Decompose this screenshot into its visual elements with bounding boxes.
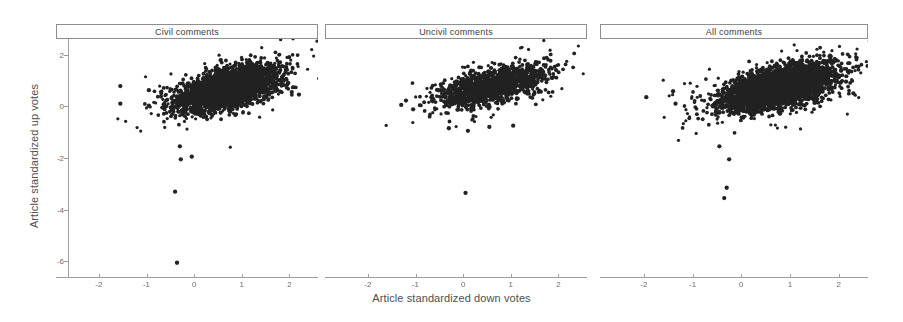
x-axis-line-0 bbox=[56, 277, 318, 278]
x-tick-mark bbox=[693, 274, 694, 278]
panel-plot-area-1 bbox=[325, 39, 587, 277]
x-tick-label: 2 bbox=[556, 280, 560, 289]
x-tick-mark bbox=[416, 274, 417, 278]
panel-header-0: Civil comments bbox=[56, 24, 318, 39]
x-tick-label: 2 bbox=[837, 280, 841, 289]
x-axis-line-1 bbox=[325, 277, 587, 278]
panel-header-1: Uncivil comments bbox=[325, 24, 587, 39]
x-tick-mark bbox=[790, 274, 791, 278]
x-tick-label: 2 bbox=[287, 280, 291, 289]
x-axis-line-2 bbox=[600, 277, 868, 278]
panel-header-label: All comments bbox=[706, 27, 762, 37]
x-tick-label: -1 bbox=[143, 280, 150, 289]
x-tick-mark bbox=[741, 274, 742, 278]
x-tick-label: 0 bbox=[192, 280, 196, 289]
x-tick-label: -1 bbox=[412, 280, 419, 289]
panel-header-label: Civil comments bbox=[155, 27, 219, 37]
scatter-canvas-1 bbox=[325, 39, 587, 277]
x-tick-mark bbox=[147, 274, 148, 278]
x-tick-mark bbox=[558, 274, 559, 278]
x-tick-mark bbox=[99, 274, 100, 278]
panel-header-label: Uncivil comments bbox=[419, 27, 493, 37]
panel-header-2: All comments bbox=[600, 24, 868, 39]
x-tick-label: 1 bbox=[788, 280, 792, 289]
x-tick-label: 1 bbox=[240, 280, 244, 289]
x-tick-mark bbox=[368, 274, 369, 278]
x-tick-mark bbox=[839, 274, 840, 278]
x-tick-label: -2 bbox=[95, 280, 102, 289]
scatter-canvas-2 bbox=[600, 39, 868, 277]
y-axis-title: Article standardized up votes bbox=[28, 36, 40, 276]
panel-plot-area-2 bbox=[600, 39, 868, 277]
x-tick-label: 1 bbox=[509, 280, 513, 289]
scatter-plot-figure: Article standardized up votes Article st… bbox=[0, 0, 903, 322]
x-tick-label: -2 bbox=[640, 280, 647, 289]
x-tick-mark bbox=[511, 274, 512, 278]
x-tick-mark bbox=[463, 274, 464, 278]
x-tick-mark bbox=[194, 274, 195, 278]
x-tick-mark bbox=[644, 274, 645, 278]
x-axis-title: Article standardized down votes bbox=[0, 292, 903, 304]
panel-plot-area-0 bbox=[56, 39, 318, 277]
x-tick-label: -1 bbox=[689, 280, 696, 289]
scatter-canvas-0 bbox=[56, 39, 318, 277]
x-tick-mark bbox=[289, 274, 290, 278]
x-tick-label: -2 bbox=[364, 280, 371, 289]
x-tick-mark bbox=[242, 274, 243, 278]
x-tick-label: 0 bbox=[739, 280, 743, 289]
x-tick-label: 0 bbox=[461, 280, 465, 289]
